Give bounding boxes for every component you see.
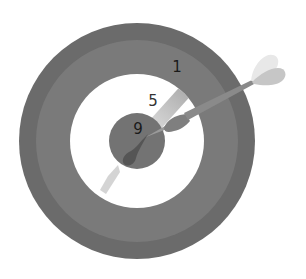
score-5-label: 5 bbox=[148, 94, 158, 109]
score-1-label: 1 bbox=[172, 60, 182, 75]
dartboard-svg bbox=[0, 0, 306, 279]
dartboard-illustration: 1 5 9 bbox=[0, 0, 306, 279]
score-9-label: 9 bbox=[133, 122, 143, 137]
